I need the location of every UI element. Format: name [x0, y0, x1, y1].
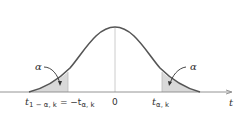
center-label: 0 — [112, 97, 118, 107]
right-alpha-label: α — [190, 61, 197, 72]
left-quantile-label: t1 − α, k= −tα, k — [25, 96, 95, 109]
right-quantile-label: tα, k — [152, 96, 170, 109]
left-alpha-label: α — [35, 61, 42, 72]
x-axis-label: t — [229, 97, 234, 108]
t-distribution-diagram: α α t1 − α, k= −tα, k 0 tα, k t — [0, 0, 240, 113]
